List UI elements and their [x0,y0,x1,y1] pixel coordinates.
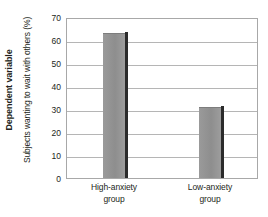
bar [199,107,221,178]
y-axis-tick-labels: 010203040506070 [40,18,64,179]
y-axis-tick-label: 10 [52,152,61,161]
y-axis-tick-label: 0 [56,175,61,184]
x-axis-tick-labels: High-anxietygroupLow-anxietygroup [66,182,258,217]
y-axis-tick-label: 70 [52,14,61,23]
x-axis-tick-label: High-anxietygroup [66,182,162,205]
bar-group [199,19,224,178]
bar-chart-figure: Dependent variable Subjects wanting to w… [0,0,268,217]
x-axis-tick-label-line: group [66,194,162,206]
y-axis-tick-label: 20 [52,129,61,138]
plot-area [66,18,258,179]
bars-layer [67,19,257,178]
y-axis-tick-label: 50 [52,60,61,69]
bar-shadow [221,106,224,178]
y-axis-title-label: Subjects wanting to wait with others (%) [22,17,32,163]
y-axis-tick-label: 60 [52,37,61,46]
bar-group [103,19,128,178]
y-axis-tick-label: 40 [52,83,61,92]
bar-shadow [125,32,128,178]
x-axis-tick-label-line: High-anxiety [66,182,162,194]
y-axis-tick-label: 30 [52,106,61,115]
outer-y-axis-title-label: Dependent variable [4,49,14,130]
x-axis-tick-label-line: group [162,194,258,206]
outer-y-axis-title: Dependent variable [0,0,18,180]
x-axis-tick-label: Low-anxietygroup [162,182,258,205]
x-axis-tick-label-line: Low-anxiety [162,182,258,194]
bar [103,33,125,178]
y-axis-title: Subjects wanting to wait with others (%) [18,0,36,180]
